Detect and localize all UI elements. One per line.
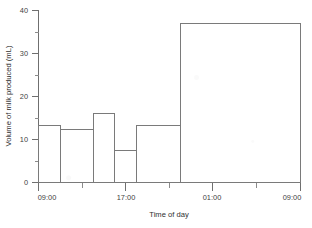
bar-11:00-14:00 xyxy=(60,129,93,182)
axes xyxy=(39,11,301,183)
y-axis-title: Volume of milk produced (mL) xyxy=(4,45,13,146)
bar-21:00-09:00 xyxy=(180,23,300,182)
y-tick-label-20: 20 xyxy=(20,92,28,101)
y-tick-label-0: 0 xyxy=(24,178,28,187)
chart-figure: 0 10 20 30 40 09:00 17:00 01:00 09:00 Ti… xyxy=(0,0,312,228)
bar-14:00-16:00 xyxy=(93,114,115,183)
y-tick-label-30: 30 xyxy=(20,49,28,58)
y-tick-label-40: 40 xyxy=(20,6,28,15)
y-axis-tick-labels: 0 10 20 30 40 xyxy=(20,6,28,187)
bar-09:00-11:00 xyxy=(39,125,61,182)
x-axis-ticks xyxy=(39,183,301,191)
y-axis-ticks xyxy=(32,11,39,183)
x-axis-title: Time of day xyxy=(149,210,189,219)
bar-16:00-18:00 xyxy=(115,150,137,182)
x-tick-label-0: 09:00 xyxy=(38,193,57,202)
x-tick-label-3: 09:00 xyxy=(283,193,302,202)
bar-series xyxy=(39,23,301,182)
x-tick-label-1: 17:00 xyxy=(117,193,136,202)
x-axis-tick-labels: 09:00 17:00 01:00 09:00 xyxy=(38,193,302,202)
x-tick-label-2: 01:00 xyxy=(203,193,222,202)
bar-18:00-21:00 xyxy=(137,125,181,182)
milk-production-histogram: 0 10 20 30 40 09:00 17:00 01:00 09:00 Ti… xyxy=(0,0,312,228)
y-tick-label-10: 10 xyxy=(20,135,28,144)
